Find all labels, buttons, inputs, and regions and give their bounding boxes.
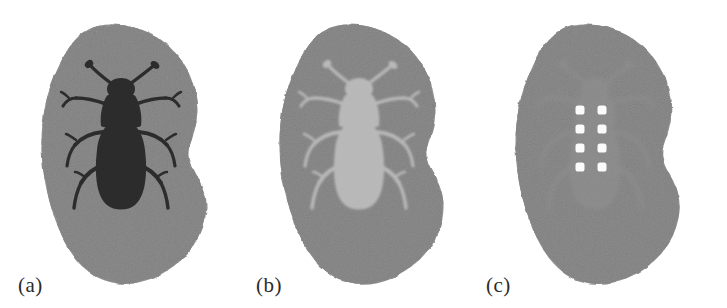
dot-r2-c2 — [598, 125, 607, 134]
panel-c: (c) — [474, 0, 716, 308]
dot-r1-c2 — [598, 106, 607, 115]
panel-b: (b) — [238, 0, 480, 308]
panel-b-grain — [238, 0, 480, 308]
dot-r3-c2 — [598, 144, 607, 153]
dot-r1-c1 — [576, 106, 585, 115]
panel-a: (a) — [0, 0, 242, 308]
dot-r3-c1 — [576, 144, 585, 153]
dot-r2-c1 — [576, 125, 585, 134]
panel-label-b: (b) — [256, 275, 282, 296]
panel-a-stage — [0, 0, 242, 308]
panel-label-c: (c) — [486, 275, 511, 296]
figure-container: (a) — [0, 0, 727, 308]
panel-c-grain — [474, 0, 716, 308]
dot-r4-c1 — [576, 163, 585, 172]
dot-r4-c2 — [598, 163, 607, 172]
panel-c-scene — [474, 0, 716, 308]
panel-a-grain — [0, 0, 242, 308]
panel-b-scene — [238, 0, 480, 308]
panel-a-scene — [0, 0, 242, 308]
panel-b-stage — [238, 0, 480, 308]
panel-label-a: (a) — [18, 275, 43, 296]
panel-c-stage — [474, 0, 716, 308]
